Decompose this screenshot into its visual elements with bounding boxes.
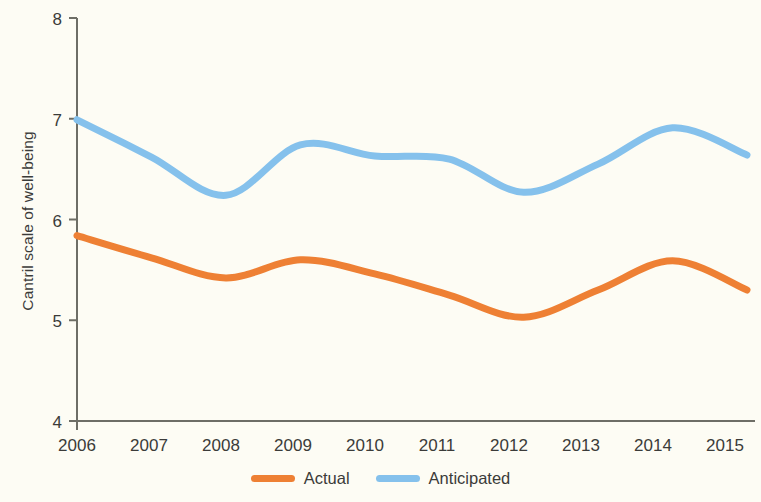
legend-label-actual: Actual xyxy=(304,470,350,487)
legend-label-anticipated: Anticipated xyxy=(429,470,511,487)
axis-lines xyxy=(70,18,755,421)
legend-swatch-anticipated xyxy=(376,475,420,482)
chart-legend: Actual Anticipated xyxy=(0,470,761,487)
legend-entry-anticipated: Anticipated xyxy=(376,470,511,487)
legend-swatch-actual xyxy=(251,475,295,482)
legend-entry-actual: Actual xyxy=(251,470,350,487)
line-series-actual xyxy=(77,236,747,318)
y-tick-marks xyxy=(69,18,77,421)
line-series-anticipated xyxy=(77,120,747,196)
chart-container: Cantril scale of well-being 8 7 6 5 4 20… xyxy=(0,0,761,502)
plot-area xyxy=(0,0,761,502)
